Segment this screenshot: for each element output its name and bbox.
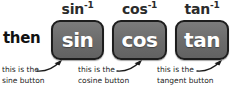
inverse-label-sin: sin-1: [51, 0, 104, 19]
inverse-label-cos: cos-1: [112, 0, 167, 19]
then-label: then: [3, 29, 49, 47]
inverse-label-tan: tan-1: [175, 0, 229, 19]
sin-button[interactable]: sin: [51, 20, 104, 60]
tan-caption-arrow-icon: [196, 59, 226, 73]
inverse-label-tan-exponent: -1: [210, 0, 219, 10]
cos-button-label: cos: [122, 30, 158, 50]
cos-caption-line2: cosine button: [78, 75, 129, 86]
inverse-label-sin-exponent: -1: [84, 0, 93, 10]
inverse-label-cos-exponent: -1: [148, 0, 157, 10]
inverse-label-tan-base: tan: [185, 1, 211, 17]
sin-caption-arrow-icon: [36, 59, 66, 73]
sin-button-label: sin: [62, 30, 94, 50]
tan-caption-line2: tangent button: [157, 75, 213, 86]
tan-button-label: tan: [184, 30, 220, 50]
cos-caption-arrow-icon: [116, 59, 146, 73]
sin-caption-line2: sine button: [2, 75, 44, 86]
trig-buttons-diagram: sin-1 cos-1 tan-1 then sin cos tan this …: [0, 0, 237, 90]
tan-button[interactable]: tan: [175, 20, 229, 60]
cos-button[interactable]: cos: [112, 20, 167, 60]
inverse-label-cos-base: cos: [122, 1, 148, 17]
inverse-label-sin-base: sin: [62, 1, 85, 17]
